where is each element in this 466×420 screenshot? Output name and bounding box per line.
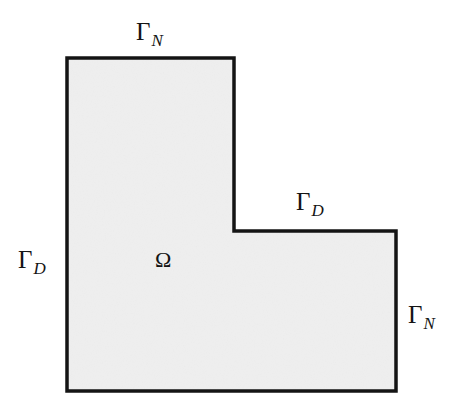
gamma-subscript: D [33,259,45,278]
l-shape-domain-diagram [0,0,466,420]
gamma-symbol: Γ [296,188,310,215]
gamma-symbol: Γ [136,18,150,45]
boundary-label-right-gamma-n: ΓN [408,302,434,327]
gamma-subscript: D [311,201,323,220]
gamma-subscript: N [151,31,162,50]
gamma-symbol: Γ [18,246,32,273]
boundary-label-left-gamma-d: ΓD [18,247,45,272]
domain-figure: ΓN ΓD ΓD ΓN Ω [0,0,466,420]
gamma-symbol: Γ [408,301,422,328]
domain-label-omega: Ω [155,249,171,271]
gamma-subscript: N [423,314,434,333]
boundary-label-top-gamma-n: ΓN [136,19,162,44]
boundary-label-inner-gamma-d: ΓD [296,189,323,214]
